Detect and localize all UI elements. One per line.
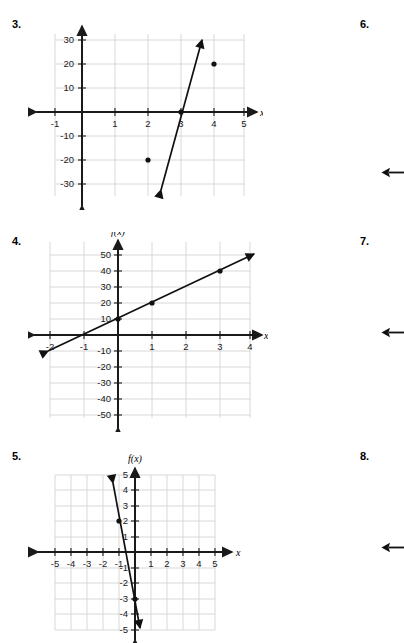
graph-problem-3: -1 1 2 3 4 5 6 30 20 10 -10 -20 -30 f(x)… <box>28 20 263 210</box>
y-tick-label: 3 <box>123 500 128 511</box>
y-tick-label: -30 <box>60 178 74 189</box>
y-tick-label: 10 <box>63 82 74 93</box>
graph-problem-5: -5 -4 -3 -2 -1 1 2 3 4 5 5 4 3 2 1 -1 -2… <box>28 450 268 643</box>
data-point <box>217 268 222 273</box>
data-point <box>132 596 137 601</box>
y-tick-label: -40 <box>97 393 111 404</box>
y-tick-label: -4 <box>120 608 128 619</box>
arrow-left-icon <box>381 166 404 180</box>
y-tick-label: -20 <box>97 361 111 372</box>
x-axis-label-4: x <box>263 330 268 341</box>
y-tick-label: -10 <box>60 130 74 141</box>
x-tick-label: 2 <box>145 118 150 129</box>
y-tick-label: -20 <box>60 154 74 165</box>
problem-number-4: 4. <box>12 235 21 247</box>
data-point <box>116 518 121 523</box>
problem-number-3: 3. <box>12 18 21 30</box>
y-tick-label: 2 <box>123 515 128 526</box>
grid-vertical-4 <box>50 242 250 418</box>
y-tick-label: 5 <box>123 469 128 480</box>
coordinate-plane-4: -2 -1 1 2 3 4 50 40 30 20 10 -10 -20 -30… <box>28 232 268 432</box>
y-tick-label: -10 <box>97 345 111 356</box>
x-tick-label: 1 <box>112 118 117 129</box>
y-tick-label: -2 <box>120 577 128 588</box>
data-point <box>178 109 183 114</box>
y-tick-label: 40 <box>100 265 111 276</box>
data-point <box>149 300 154 305</box>
problem-number-7: 7. <box>360 235 369 247</box>
coordinate-plane-5: -5 -4 -3 -2 -1 1 2 3 4 5 5 4 3 2 1 -1 -2… <box>28 450 268 643</box>
x-tick-label: 1 <box>148 558 153 569</box>
grid-vertical-3 <box>55 34 244 196</box>
y-tick-label: 20 <box>100 297 111 308</box>
clipped-graph-arrow-8 <box>381 541 404 559</box>
y-tick-label: -50 <box>97 409 111 420</box>
y-axis-label-5: f(x) <box>128 453 143 465</box>
x-tick-label: 3 <box>217 341 222 352</box>
y-tick-label: 50 <box>100 249 111 260</box>
clipped-graph-arrow-6 <box>381 166 404 184</box>
x-tick-label: -1 <box>80 341 88 352</box>
x-tick-label: 5 <box>241 118 246 129</box>
x-tick-label: 4 <box>211 118 216 129</box>
data-point <box>211 61 216 66</box>
x-tick-label: 1 <box>149 341 154 352</box>
x-tick-label: 4 <box>196 558 201 569</box>
arrow-left-icon <box>381 541 404 555</box>
x-tick-label: 4 <box>247 341 252 352</box>
x-tick-label: 5 <box>212 558 217 569</box>
coordinate-plane-3: -1 1 2 3 4 5 6 30 20 10 -10 -20 -30 f(x)… <box>28 20 263 210</box>
x-tick-label: 2 <box>164 558 169 569</box>
y-tick-label: 30 <box>63 34 74 45</box>
x-tick-label: -1 <box>51 118 59 129</box>
y-tick-label: 4 <box>123 484 128 495</box>
problem-number-8: 8. <box>360 450 369 462</box>
x-tick-label: 3 <box>180 558 185 569</box>
x-tick-label: 2 <box>183 341 188 352</box>
function-line-3 <box>161 40 202 190</box>
graph-problem-4: -2 -1 1 2 3 4 50 40 30 20 10 -10 -20 -30… <box>28 232 268 432</box>
x-tick-label: -4 <box>67 558 75 569</box>
y-axis-label-3: f(x) <box>75 20 90 21</box>
x-axis-label-3: x <box>259 107 263 118</box>
x-tick-label: -2 <box>99 558 107 569</box>
problem-number-5: 5. <box>12 450 21 462</box>
x-tick-label: -5 <box>51 558 59 569</box>
data-point <box>115 316 120 321</box>
x-axis-label-5: x <box>235 547 241 558</box>
arrow-left-icon <box>381 326 404 340</box>
x-tick-label: -3 <box>83 558 91 569</box>
y-tick-label: -5 <box>120 624 128 635</box>
clipped-graph-arrow-7 <box>381 326 404 344</box>
problem-number-6: 6. <box>360 18 369 30</box>
y-tick-label: -3 <box>120 593 128 604</box>
y-tick-label: -1 <box>120 562 128 573</box>
y-tick-label: -30 <box>97 377 111 388</box>
y-axis-label-4: f(x) <box>111 232 126 238</box>
y-tick-label: 30 <box>100 281 111 292</box>
y-tick-label: 20 <box>63 58 74 69</box>
data-point <box>145 157 150 162</box>
